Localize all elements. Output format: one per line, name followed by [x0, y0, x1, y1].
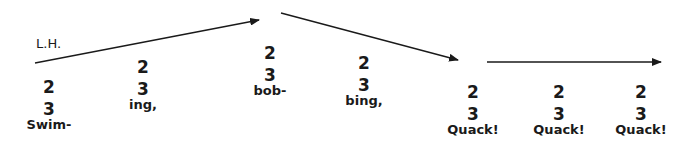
finger-top: 2 [129, 56, 157, 78]
lyric: Quack! [447, 123, 498, 137]
syllable-bing: 2 3 bing, [345, 52, 382, 108]
syllable-bob: 2 3 bob- [254, 42, 287, 98]
finger-top: 2 [533, 81, 584, 103]
lyric: ing, [129, 98, 157, 112]
syllable-quack-2: 2 3 Quack! [533, 81, 584, 137]
lyric: Swim- [27, 118, 72, 132]
finger-top: 2 [27, 76, 72, 98]
lyric: Quack! [533, 123, 584, 137]
lyric: Quack! [615, 123, 666, 137]
finger-top: 2 [615, 81, 666, 103]
syllable-quack-1: 2 3 Quack! [447, 81, 498, 137]
left-hand-label: L.H. [36, 37, 61, 50]
finger-top: 2 [447, 81, 498, 103]
finger-top: 2 [345, 52, 382, 74]
lyric: bob- [254, 84, 287, 98]
syllable-ing: 2 3 ing, [129, 56, 157, 112]
syllable-quack-3: 2 3 Quack! [615, 81, 666, 137]
lyric: bing, [345, 94, 382, 108]
finger-top: 2 [254, 42, 287, 64]
syllable-swim: 2 3 Swim- [27, 76, 72, 132]
